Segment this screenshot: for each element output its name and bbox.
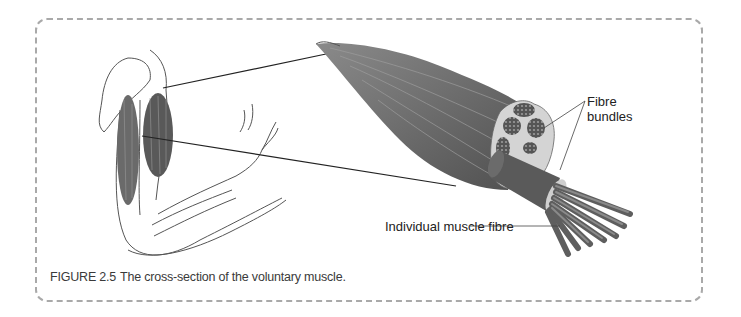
biceps-muscle <box>117 93 173 205</box>
muscle-body <box>316 42 571 216</box>
zoom-line-top <box>163 54 326 88</box>
fibre-bundles-label-line2: bundles <box>587 109 633 124</box>
figure-number: FIGURE 2.5 <box>50 270 120 284</box>
individual-fibre-label: Individual muscle fibre <box>385 219 514 234</box>
individual-fibres <box>548 186 630 254</box>
fibre-bundles-label-line1: Fibre <box>587 94 633 109</box>
figure-caption-text: The cross-section of the voluntary muscl… <box>120 270 346 284</box>
figure-caption: FIGURE 2.5The cross-section of the volun… <box>50 270 346 284</box>
fibre-bundles-label: Fibre bundles <box>587 94 633 124</box>
